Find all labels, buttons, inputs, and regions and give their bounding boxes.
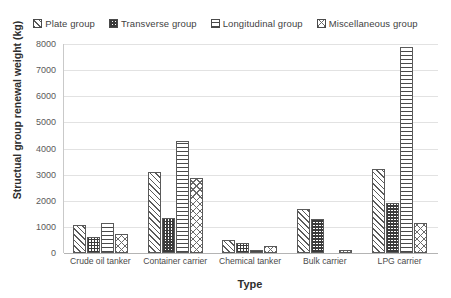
x-axis-line <box>64 253 438 254</box>
bar <box>222 240 235 253</box>
x-axis-title: Type <box>63 278 437 290</box>
bar <box>264 246 277 253</box>
legend-item-plate-group: Plate group <box>33 18 95 29</box>
bar <box>101 223 114 253</box>
legend-swatch-plate-icon <box>33 19 42 28</box>
bar <box>311 219 324 253</box>
y-axis-tick-label: 4000 <box>36 144 56 154</box>
legend-item-longitudinal-group: Longitudinal group <box>211 18 303 29</box>
legend-item-miscellaneous-group: Miscellaneous group <box>317 18 418 29</box>
legend-item-transverse-group: Transverse group <box>109 18 197 29</box>
bar <box>372 169 385 253</box>
bar <box>87 237 100 253</box>
bar <box>115 234 128 253</box>
x-axis-category-label: Bulk carrier <box>287 256 362 272</box>
y-axis-tick-label: 1000 <box>36 222 56 232</box>
bar <box>162 218 175 253</box>
legend-label-miscellaneous-group: Miscellaneous group <box>329 18 418 29</box>
bar-group <box>362 44 437 253</box>
y-axis-tick-label: 0 <box>51 248 56 258</box>
bar-group <box>213 44 288 253</box>
bar <box>190 178 203 253</box>
legend-swatch-transverse-icon <box>109 19 118 28</box>
legend-label-transverse-group: Transverse group <box>121 18 197 29</box>
bar <box>236 243 249 253</box>
x-axis-category-label: Container carrier <box>138 256 213 272</box>
legend-label-longitudinal-group: Longitudinal group <box>223 18 303 29</box>
legend-swatch-longitudinal-icon <box>211 19 220 28</box>
legend-swatch-miscellaneous-icon <box>317 19 326 28</box>
x-axis-category-labels: Crude oil tankerContainer carrierChemica… <box>63 256 437 272</box>
x-axis-category-label: Chemical tanker <box>213 256 288 272</box>
bar <box>73 225 86 253</box>
y-axis-tick-label: 8000 <box>36 39 56 49</box>
bar-group <box>138 44 213 253</box>
x-axis-category-label: Crude oil tanker <box>63 256 138 272</box>
legend-label-plate-group: Plate group <box>45 18 95 29</box>
y-axis-tick-label: 6000 <box>36 91 56 101</box>
bar-groups <box>63 44 437 253</box>
bar <box>339 250 352 253</box>
bar-group <box>63 44 138 253</box>
y-axis-tick-label: 7000 <box>36 65 56 75</box>
y-axis-tick-label: 2000 <box>36 196 56 206</box>
bar <box>400 47 413 253</box>
bar-chart: Plate group Transverse group Longitudina… <box>0 0 451 298</box>
y-axis-tick-labels: 010002000300040005000600070008000 <box>0 44 60 253</box>
bar <box>386 203 399 253</box>
bar <box>176 141 189 253</box>
bar-group <box>287 44 362 253</box>
y-axis-tick-label: 3000 <box>36 170 56 180</box>
y-axis-tick-label: 5000 <box>36 117 56 127</box>
bar <box>297 209 310 253</box>
bar <box>148 172 161 254</box>
bar <box>414 223 427 253</box>
x-axis-category-label: LPG carrier <box>362 256 437 272</box>
chart-legend: Plate group Transverse group Longitudina… <box>0 14 451 32</box>
bar <box>250 250 263 253</box>
